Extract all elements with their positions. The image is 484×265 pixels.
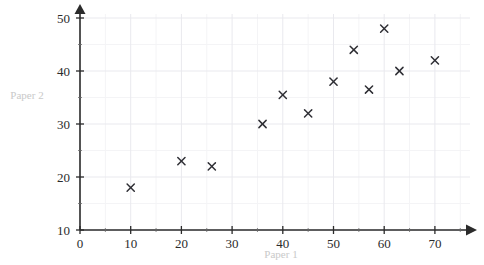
axis-lines <box>75 4 478 236</box>
x-tick-label: 50 <box>327 236 340 251</box>
chart-canvas: 010203040506070 1020304050 Paper 1 Paper… <box>0 0 484 265</box>
y-axis-title: Paper 2 <box>10 89 43 101</box>
axis-tick-marks <box>76 18 460 234</box>
y-tick-label: 20 <box>57 170 70 185</box>
x-axis-title: Paper 1 <box>264 248 297 260</box>
scatter-chart: 010203040506070 1020304050 Paper 1 Paper… <box>0 0 484 265</box>
y-tick-label: 50 <box>57 11 70 26</box>
x-tick-label: 30 <box>226 236 239 251</box>
x-tick-label: 20 <box>175 236 188 251</box>
x-axis-arrow-icon <box>466 225 477 236</box>
grid-minor-lines <box>80 14 470 230</box>
grid-major-lines <box>80 14 470 230</box>
y-tick-label: 30 <box>57 117 70 132</box>
x-tick-label: 70 <box>428 236 441 251</box>
x-tick-label: 60 <box>378 236 391 251</box>
y-tick-label: 10 <box>57 223 70 238</box>
y-axis-tick-labels: 1020304050 <box>57 11 70 238</box>
y-tick-label: 40 <box>57 64 70 79</box>
y-axis-arrow-icon <box>75 4 86 14</box>
x-tick-label: 0 <box>77 236 84 251</box>
x-tick-label: 10 <box>124 236 137 251</box>
data-point-marker <box>350 46 357 53</box>
data-point-marker <box>365 86 372 93</box>
data-point-marker <box>208 163 215 170</box>
x-axis-tick-labels: 010203040506070 <box>77 236 442 251</box>
